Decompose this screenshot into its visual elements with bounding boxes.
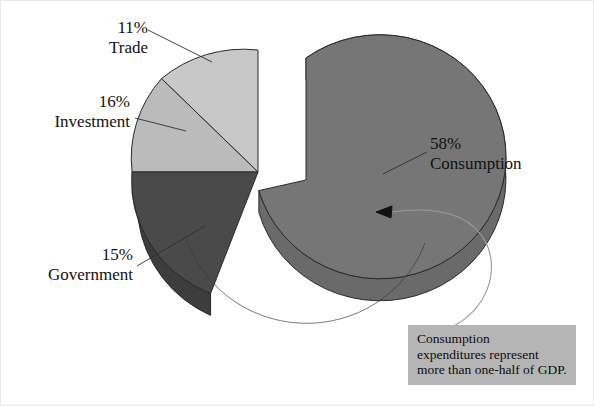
pie-chart-figure: 11% Trade 16% Investment 15% Government …: [0, 0, 594, 406]
investment-percent: 16%: [0, 92, 130, 112]
callout-line-3: more than one-half of GDP.: [417, 362, 568, 378]
callout-line-1: Consumption: [417, 331, 568, 347]
government-slice: [132, 172, 258, 293]
slice-label-investment: 16% Investment: [0, 92, 130, 132]
slice-label-government: 15% Government: [0, 245, 133, 285]
government-name: Government: [0, 265, 133, 285]
trade-leader-line: [148, 30, 212, 62]
slice-label-consumption: 58% Consumption: [430, 134, 580, 174]
government-percent: 15%: [0, 245, 133, 265]
trade-name: Trade: [20, 38, 148, 58]
slice-label-trade: 11% Trade: [20, 18, 148, 58]
trade-percent: 11%: [20, 18, 148, 38]
consumption-name: Consumption: [430, 154, 580, 174]
callout-line-2: expenditures represent: [417, 347, 568, 363]
consumption-percent: 58%: [430, 134, 580, 154]
consumption-callout-box: Consumption expenditures represent more …: [408, 325, 576, 385]
investment-name: Investment: [0, 112, 130, 132]
